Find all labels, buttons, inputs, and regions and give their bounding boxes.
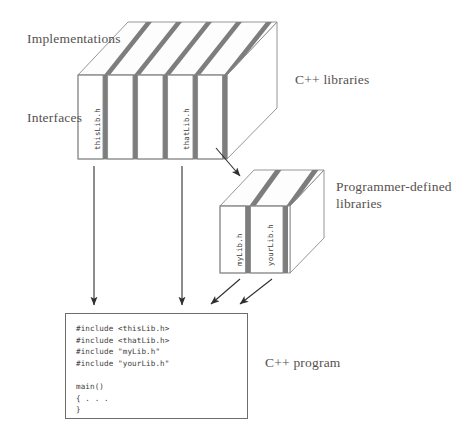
slab-label-thatlib: thatLib.h [182, 108, 191, 150]
diagram-canvas: thisLib.h thatLib.h myLib.h yourLib.h Im… [0, 0, 462, 445]
slab-label-thislib: thisLib.h [93, 108, 102, 150]
label-cpp-libraries: C++ libraries [295, 72, 369, 88]
slab-label-mylib: myLib.h [235, 233, 244, 266]
arrow-yourlib-to-program [240, 279, 272, 304]
label-cpp-program: C++ program [265, 355, 341, 371]
code-box-text: #include <thisLib.h> #include <thatLib.h… [76, 323, 169, 416]
code-box: #include <thisLib.h> #include <thatLib.h… [65, 313, 248, 419]
label-implementations: Implementations [27, 31, 121, 47]
arrow-mylib-to-program [211, 279, 240, 304]
slab-label-yourlib: yourLib.h [266, 224, 275, 266]
label-interfaces: Interfaces [27, 110, 82, 126]
label-programmer-defined-libraries: Programmer-defined libraries [336, 178, 462, 212]
programmer-library-box-front-face [220, 206, 290, 273]
